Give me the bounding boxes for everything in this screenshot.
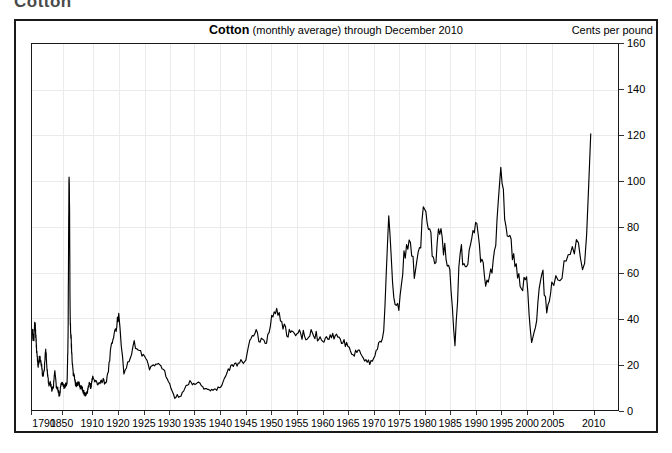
x-tick-1790 xyxy=(31,411,32,415)
chart-title-detail: (monthly average) through December 2010 xyxy=(253,24,463,36)
x-axis-label-1960: 1960 xyxy=(311,417,334,429)
page-title: Cotton (monthly average) through Decembe… xyxy=(16,23,656,37)
x-tick-1955 xyxy=(297,411,298,415)
plot-area-wrapper: 020406080100120140160 xyxy=(31,43,635,411)
x-tick-1940 xyxy=(220,411,221,415)
x-tick-1975 xyxy=(399,411,400,415)
cotton-price-series-line xyxy=(32,134,591,399)
x-axis-label-1970: 1970 xyxy=(362,417,385,429)
y-axis-unit-label: Cents per pound xyxy=(572,24,653,36)
x-tick-1985 xyxy=(450,411,451,415)
x-tick-1925 xyxy=(144,411,145,415)
x-axis-label-1975: 1975 xyxy=(387,417,410,429)
x-tick-1965 xyxy=(348,411,349,415)
clipped-page-heading-text: Cotton xyxy=(14,0,214,12)
x-tick-1930 xyxy=(169,411,170,415)
x-axis-label-1910: 1910 xyxy=(80,417,103,429)
y-axis-label-120: 120 xyxy=(627,130,645,141)
x-axis-label-1965: 1965 xyxy=(336,417,359,429)
cotton-price-line-chart xyxy=(32,44,618,410)
x-axis-label-2005: 2005 xyxy=(541,417,564,429)
y-axis-label-100: 100 xyxy=(627,176,645,187)
x-axis-labels: 1790185019101920192519301935194019451950… xyxy=(31,411,619,435)
x-tick-1980 xyxy=(425,411,426,415)
x-tick-1970 xyxy=(374,411,375,415)
x-axis-label-1980: 1980 xyxy=(413,417,436,429)
chart-series-name: Cotton xyxy=(209,23,249,37)
x-axis-label-2010: 2010 xyxy=(582,417,605,429)
x-axis-label-2000: 2000 xyxy=(516,417,539,429)
x-axis-label-1925: 1925 xyxy=(132,417,155,429)
x-axis-label-1955: 1955 xyxy=(285,417,308,429)
y-axis-label-20: 20 xyxy=(627,360,639,371)
x-axis-label-1935: 1935 xyxy=(183,417,206,429)
x-tick-1920 xyxy=(118,411,119,415)
x-tick-1995 xyxy=(501,411,502,415)
chart-frame: Cotton (monthly average) through Decembe… xyxy=(14,19,658,433)
y-axis-label-40: 40 xyxy=(627,314,639,325)
x-axis-label-1950: 1950 xyxy=(260,417,283,429)
x-axis-label-1945: 1945 xyxy=(234,417,257,429)
x-axis-label-1930: 1930 xyxy=(157,417,180,429)
x-tick-1960 xyxy=(323,411,324,415)
chart-title-bar: Cotton (monthly average) through Decembe… xyxy=(16,21,656,41)
y-tick-0 xyxy=(619,411,624,412)
y-axis-label-140: 140 xyxy=(627,84,645,95)
x-tick-1850 xyxy=(62,411,63,415)
x-axis-label-1850: 1850 xyxy=(50,417,73,429)
x-axis-label-1920: 1920 xyxy=(106,417,129,429)
x-tick-1935 xyxy=(194,411,195,415)
clipped-page-heading: Cotton xyxy=(14,0,214,12)
x-tick-1910 xyxy=(92,411,93,415)
x-tick-1945 xyxy=(246,411,247,415)
y-axis-label-0: 0 xyxy=(627,406,633,417)
x-tick-2010 xyxy=(594,411,595,415)
x-axis-label-1990: 1990 xyxy=(464,417,487,429)
y-axis-label-80: 80 xyxy=(627,222,639,233)
x-tick-2000 xyxy=(527,411,528,415)
x-tick-2005 xyxy=(553,411,554,415)
y-axis-labels: 020406080100120140160 xyxy=(621,43,657,411)
x-axis-label-1995: 1995 xyxy=(490,417,513,429)
x-axis-label-1940: 1940 xyxy=(209,417,232,429)
x-tick-1990 xyxy=(476,411,477,415)
plot-area xyxy=(31,43,619,411)
x-tick-1950 xyxy=(271,411,272,415)
y-axis-label-160: 160 xyxy=(627,38,645,49)
y-axis-label-60: 60 xyxy=(627,268,639,279)
x-axis-label-1985: 1985 xyxy=(439,417,462,429)
